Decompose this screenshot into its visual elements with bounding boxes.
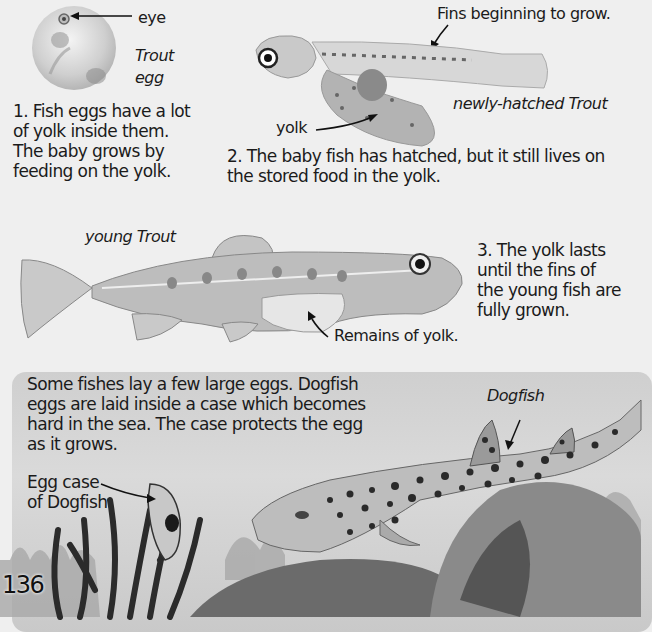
panel-text-line: eggs are laid inside a case which become… bbox=[27, 394, 366, 414]
caption-line: 1. Fish eggs have a lot bbox=[13, 101, 190, 121]
caption-line: feeding on the yolk. bbox=[13, 161, 190, 181]
egg-case-label: Egg case of Dogfish bbox=[27, 472, 107, 512]
dogfish-label: Dogfish bbox=[487, 386, 544, 405]
caption-line: fully grown. bbox=[477, 300, 621, 320]
caption-line: 3. The yolk lasts bbox=[477, 240, 621, 260]
caption-step-3: 3. The yolk lasts until the fins of the … bbox=[477, 240, 621, 320]
caption-step-2: 2. The baby fish has hatched, but it sti… bbox=[227, 146, 605, 186]
egg-case-label-line: of Dogfish bbox=[27, 492, 107, 512]
caption-line: the young fish are bbox=[477, 280, 621, 300]
yolk-label: yolk bbox=[276, 118, 307, 137]
yolk-pointer-arrow bbox=[314, 112, 394, 142]
egg-case-label-line: Egg case bbox=[27, 472, 107, 492]
page-number: 136 bbox=[2, 571, 43, 599]
panel-text-line: as it grows. bbox=[27, 434, 366, 454]
caption-line: The baby grows by bbox=[13, 141, 190, 161]
caption-line: 2. The baby fish has hatched, but it sti… bbox=[227, 146, 605, 166]
eye-label: eye bbox=[138, 8, 166, 27]
panel-text-line: Some fishes lay a few large eggs. Dogfis… bbox=[27, 374, 366, 394]
dogfish-panel-text: Some fishes lay a few large eggs. Dogfis… bbox=[27, 374, 366, 454]
newly-hatched-trout-title: newly-hatched Trout bbox=[453, 94, 607, 113]
caption-line: of yolk inside them. bbox=[13, 121, 190, 141]
remains-of-yolk-label: Remains of yolk. bbox=[334, 326, 458, 345]
caption-step-1: 1. Fish eggs have a lot of yolk inside t… bbox=[13, 101, 190, 181]
trout-egg-title-line2: egg bbox=[135, 68, 164, 87]
fins-label: Fins beginning to grow. bbox=[437, 4, 610, 23]
panel-text-line: hard in the sea. The case protects the e… bbox=[27, 414, 366, 434]
caption-line: until the fins of bbox=[477, 260, 621, 280]
trout-egg-title-line1: Trout bbox=[135, 46, 174, 65]
caption-line: the stored food in the yolk. bbox=[227, 166, 605, 186]
